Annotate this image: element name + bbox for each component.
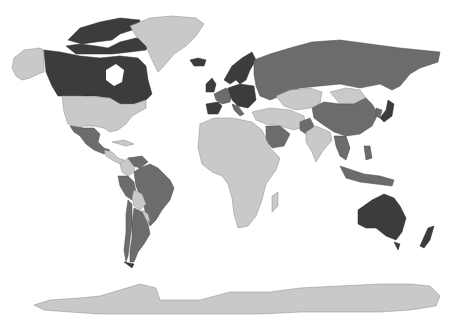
region-alaska: [12, 48, 44, 80]
region-canada: [44, 50, 152, 104]
region-central-america: [104, 150, 124, 164]
region-cuba: [112, 140, 134, 146]
region-southeast-asia: [334, 136, 350, 160]
region-new-zealand: [420, 226, 434, 248]
region-indonesia: [340, 166, 394, 186]
region-united-kingdom: [206, 78, 216, 92]
region-tierra-del-fuego: [124, 262, 134, 268]
region-madagascar: [272, 192, 278, 212]
region-philippines: [364, 146, 372, 160]
region-antarctica: [34, 284, 440, 314]
region-scandinavia: [224, 52, 256, 84]
region-saudi-arabia: [266, 126, 290, 148]
region-australia: [358, 194, 406, 240]
world-map: [0, 0, 453, 325]
region-iceland: [190, 58, 206, 66]
caption-strip: [0, 317, 453, 325]
region-spain: [206, 102, 222, 114]
region-india: [306, 126, 332, 162]
region-japan: [380, 100, 394, 122]
region-tasmania: [394, 242, 400, 250]
